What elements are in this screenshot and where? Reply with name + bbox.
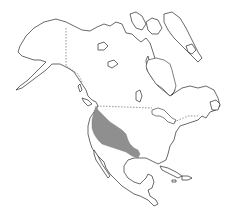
arctic-island-1 [130,12,146,30]
arctic-island-2 [146,18,162,34]
jamaica [172,180,176,182]
cuba [160,166,182,178]
haida-gwaii [78,84,82,92]
north-america-map [0,0,233,214]
hispaniola [182,176,192,180]
arctic-island-3 [164,12,202,62]
vancouver-island [82,98,92,106]
range-map [0,0,233,214]
